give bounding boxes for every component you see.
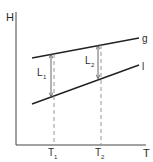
y-axis-label: H xyxy=(6,11,14,23)
curve-g-label: g xyxy=(142,33,148,44)
l1-label: L 1 xyxy=(37,67,47,80)
t2-label: T 2 xyxy=(95,147,105,160)
svg-text:2: 2 xyxy=(91,62,95,68)
svg-text:2: 2 xyxy=(101,154,105,160)
diagram-canvas: H T g l L 1 L 2 T 1 T 2 xyxy=(0,0,153,162)
svg-text:1: 1 xyxy=(54,154,58,160)
t1-label: T 1 xyxy=(48,147,58,160)
curve-l xyxy=(32,65,139,104)
svg-text:1: 1 xyxy=(43,74,47,80)
curve-l-label: l xyxy=(142,61,144,72)
l2-label: L 2 xyxy=(85,55,95,68)
x-axis-label: T xyxy=(143,147,150,159)
